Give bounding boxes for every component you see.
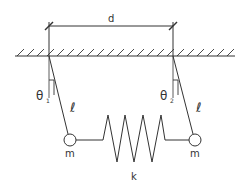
right-mass [189,134,201,146]
right-rod [173,56,193,134]
right-angle-marker [173,80,178,95]
left-angle-marker [49,80,54,95]
angle-left-label: θ [36,89,43,103]
ceiling-hatching [17,49,234,56]
distance-label: d [108,13,114,24]
length-right-label: ℓ [195,100,201,115]
distance-dimension [45,22,177,56]
angle-left-subscript: 1 [46,97,50,104]
angle-right-subscript: 2 [170,97,174,104]
coupled-pendulum-diagram: d θ 1 θ 2 ℓ ℓ m m k [0,0,250,187]
mass-left-label: m [65,148,75,159]
spring-constant-label: k [131,171,137,182]
spring [76,115,189,162]
length-left-label: ℓ [69,100,75,115]
angle-right-label: θ [160,89,167,103]
left-rod [49,56,68,134]
left-mass [64,134,76,146]
mass-right-label: m [190,148,200,159]
diagram-svg: d θ 1 θ 2 ℓ ℓ m m k [0,0,250,187]
